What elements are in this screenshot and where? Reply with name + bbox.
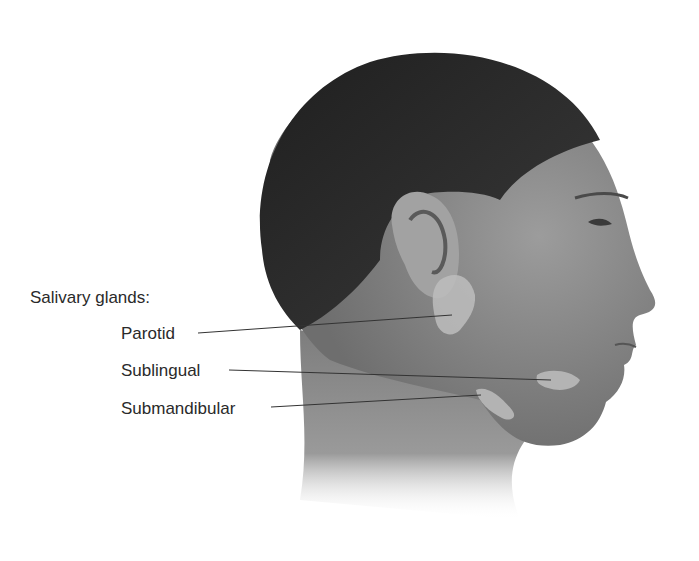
label-parotid: Parotid bbox=[121, 325, 175, 342]
heading-salivary-glands: Salivary glands: bbox=[30, 289, 150, 306]
label-sublingual: Sublingual bbox=[121, 362, 200, 379]
label-submandibular: Submandibular bbox=[121, 400, 235, 417]
salivary-glands-figure: Salivary glands: Parotid Sublingual Subm… bbox=[0, 0, 699, 561]
head-profile-illustration bbox=[0, 0, 699, 561]
